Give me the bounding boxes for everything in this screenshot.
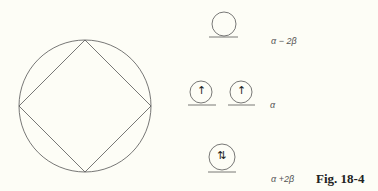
orbital-level-top <box>209 12 238 37</box>
paired-arrows-icon: ⇅ <box>217 149 226 162</box>
orbital-empty <box>212 12 236 36</box>
up-arrow-icon: ↑ <box>237 84 246 97</box>
energy-label-bottom: α +2β <box>271 174 294 184</box>
frost-diagram <box>0 0 378 191</box>
inscribed-square <box>19 40 151 172</box>
energy-label-middle: α <box>270 100 275 110</box>
frost-circle <box>19 40 151 172</box>
figure-caption: Fig. 18-4 <box>316 171 364 187</box>
energy-label-top: α − 2β <box>271 36 297 46</box>
up-arrow-icon: ↑ <box>197 84 206 97</box>
frost-circle-figure <box>19 40 151 172</box>
